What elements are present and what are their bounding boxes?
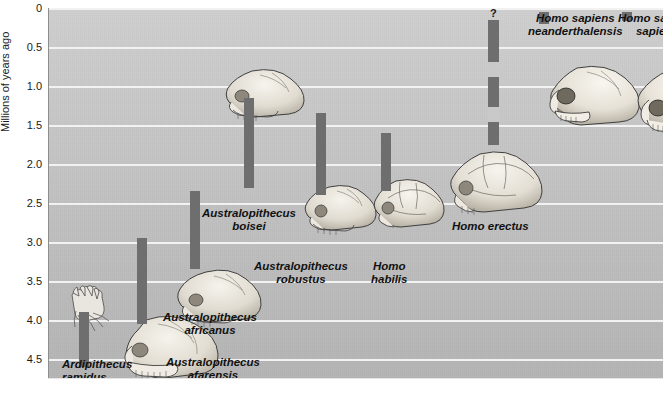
- caption-line-2: boisei: [202, 220, 296, 233]
- gridline-0.5: [48, 47, 663, 49]
- ytick-label-2.0: 2.0: [0, 159, 42, 170]
- range-bar-australopithecus-robustus: [316, 113, 326, 195]
- illustration-australopithecus-boisei: [220, 66, 312, 122]
- hominid-timeline-figure: ? Ardipithecus ramidus Australopithecus …: [0, 0, 669, 403]
- caption-homo-erectus: Homo erectus: [452, 220, 529, 233]
- caption-australopithecus-robustus: Australopithecus robustus: [254, 260, 348, 285]
- caption-line-1: Homo sapiens: [618, 12, 663, 25]
- range-bar-australopithecus-afarensis: [137, 238, 147, 324]
- ytick-label-4.5: 4.5: [0, 354, 42, 365]
- range-bar-australopithecus-boisei: [244, 98, 254, 188]
- range-bar-homo-erectus: [488, 20, 499, 145]
- caption-line-2: neanderthalensis: [528, 25, 623, 38]
- ytick-label-3.0: 3.0: [0, 237, 42, 248]
- y-axis-title: Millions of years ago: [0, 0, 11, 132]
- caption-line-2: robustus: [254, 273, 348, 286]
- plot-bottom-rule: [48, 378, 663, 379]
- caption-line-1: Homo erectus: [452, 220, 529, 233]
- caption-homo-sapiens-sapiens: Homo sapiens sapiens: [618, 12, 663, 37]
- range-bar-homo-habilis: [381, 133, 391, 191]
- illustration-homo-sapiens-sapiens: [631, 66, 663, 136]
- caption-line-2: africanus: [163, 324, 257, 337]
- caption-line-1: Australopithecus: [254, 260, 348, 273]
- range-bar-australopithecus-africanus: [190, 191, 200, 269]
- ytick-label-2.5: 2.5: [0, 198, 42, 209]
- caption-line-1: Australopithecus: [202, 207, 296, 220]
- caption-line-1: Ardipithecus: [62, 358, 132, 371]
- caption-homo-habilis: Homo habilis: [371, 260, 407, 285]
- caption-line-1: Australopithecus: [163, 311, 257, 324]
- caption-australopithecus-afarensis: Australopithecus afarensis: [166, 356, 260, 378]
- caption-line-2: afarensis: [166, 369, 260, 379]
- caption-line-2: ramidus: [62, 371, 132, 379]
- ytick-label-3.5: 3.5: [0, 276, 42, 287]
- gridline-0: [48, 8, 663, 10]
- caption-line-2: sapiens: [618, 25, 663, 38]
- chart-plot-area: ? Ardipithecus ramidus Australopithecus …: [48, 8, 663, 378]
- caption-homo-sapiens-neanderthalensis: Homo sapiens neanderthalensis: [528, 12, 623, 37]
- caption-australopithecus-africanus: Australopithecus africanus: [163, 311, 257, 336]
- caption-line-1: Homo sapiens: [528, 12, 623, 25]
- caption-australopithecus-boisei: Australopithecus boisei: [202, 207, 296, 232]
- illustration-homo-sapiens-neanderthalensis: [543, 63, 641, 129]
- caption-ardipithecus-ramidus: Ardipithecus ramidus: [62, 358, 132, 378]
- caption-line-1: Homo: [371, 260, 407, 273]
- caption-line-2: habilis: [371, 273, 407, 286]
- erectus-uncertainty-question-mark: ?: [490, 8, 497, 19]
- ytick-label-4.0: 4.0: [0, 315, 42, 326]
- gridline-2.0: [48, 164, 663, 166]
- caption-line-1: Australopithecus: [166, 356, 260, 369]
- illustration-homo-erectus: [444, 148, 548, 218]
